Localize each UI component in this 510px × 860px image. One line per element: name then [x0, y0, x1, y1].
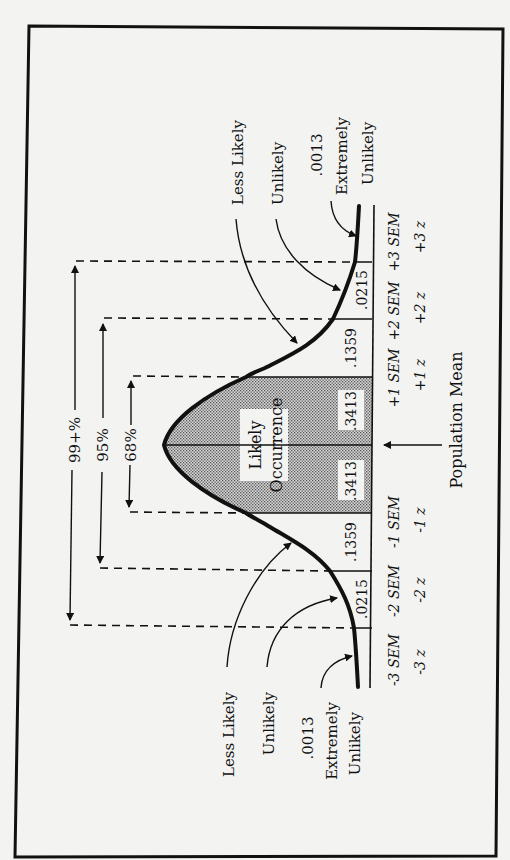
- annotation-arrows-lower: [227, 543, 352, 688]
- z-plus2: +2 z: [412, 291, 428, 324]
- prob-upper-inner: .3413: [343, 391, 359, 431]
- prob-lower-mid: .1359: [343, 522, 359, 562]
- prob-lower-tail: .0215: [354, 579, 370, 619]
- prob-upper-tail: .0215: [354, 270, 370, 310]
- annotation-arrows-upper: [236, 201, 356, 343]
- prob-upper-mid: .1359: [343, 328, 359, 368]
- z-minus1: -1 z: [412, 507, 428, 533]
- upper-less-likely: Less Likely: [229, 119, 247, 205]
- upper-prob: .0013: [308, 134, 326, 177]
- upper-extremely-unlikely: Unlikely: [359, 121, 377, 185]
- occurrence-label: Occurrence: [267, 398, 286, 493]
- sem-plus3: +3 SEM: [386, 212, 402, 272]
- normal-curve-figure: 99+% 95% 68% Likely Occurrence .3413 .34…: [0, 0, 510, 860]
- lower-prob: .0013: [299, 717, 317, 760]
- upper-unlikely: Unlikely: [269, 141, 287, 205]
- z-minus3: -3 z: [412, 649, 428, 675]
- sem-minus3: -3 SEM: [386, 633, 402, 686]
- sem-minus2: -2 SEM: [386, 564, 402, 617]
- upper-extremely: Extremely: [333, 117, 351, 195]
- population-mean-label: Population Mean: [447, 351, 466, 488]
- lower-less-likely: Less Likely: [220, 691, 238, 777]
- z-minus2: -2 z: [412, 577, 428, 603]
- prob-lower-inner: .3413: [343, 461, 359, 501]
- lower-extremely-unlikely: Unlikely: [346, 711, 364, 775]
- sem-plus1: +1 SEM: [386, 348, 402, 408]
- label-95: 95%: [94, 428, 112, 461]
- lower-unlikely: Unlikely: [260, 691, 278, 755]
- sem-plus2: +2 SEM: [386, 281, 402, 341]
- likely-label: Likely: [246, 420, 265, 469]
- z-plus1: +1 z: [412, 358, 428, 391]
- label-99: 99+%: [66, 417, 84, 463]
- z-plus3: +3 z: [412, 220, 428, 253]
- lower-extremely: Extremely: [323, 701, 341, 779]
- sem-minus1: -1 SEM: [386, 495, 402, 548]
- label-68: 68%: [122, 428, 140, 461]
